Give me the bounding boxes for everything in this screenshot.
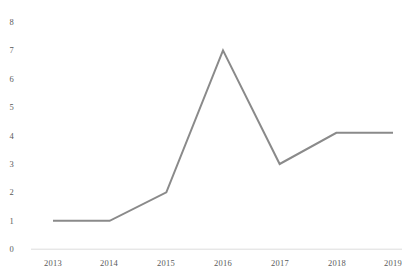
line-chart: 8 7 6 5 4 3 2 1 0 2013 2014 2015 2016 20… — [0, 0, 416, 279]
x-tick-label-2014: 2014 — [100, 258, 118, 268]
x-tick-label-2019: 2019 — [384, 258, 402, 268]
x-tick-label-2018: 2018 — [328, 258, 346, 268]
x-tick-label-2013: 2013 — [44, 258, 62, 268]
x-tick-label-2017: 2017 — [271, 258, 289, 268]
x-tick-label-2015: 2015 — [157, 258, 175, 268]
x-axis: 2013 2014 2015 2016 2017 2018 2019 — [0, 0, 416, 279]
x-tick-label-2016: 2016 — [214, 258, 232, 268]
